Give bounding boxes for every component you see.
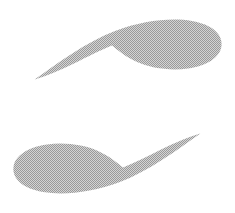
logo-svg (0, 0, 235, 213)
logo-canvas (0, 0, 235, 213)
